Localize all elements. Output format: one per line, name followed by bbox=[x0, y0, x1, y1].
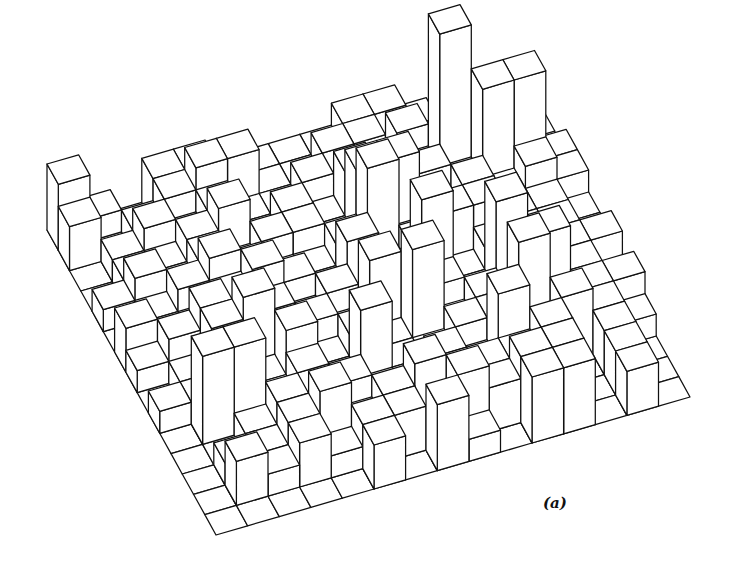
histogram-bar bbox=[148, 382, 191, 434]
histogram-bar bbox=[225, 432, 268, 506]
bar-face-front bbox=[532, 368, 564, 443]
bar-face-front bbox=[437, 395, 469, 470]
histogram-bar bbox=[616, 342, 659, 416]
histogram-3d-figure bbox=[0, 0, 737, 577]
histogram-bar bbox=[521, 347, 564, 443]
figure-caption: (a) bbox=[543, 494, 567, 512]
histogram-bar bbox=[363, 415, 406, 489]
bar-face-front bbox=[564, 359, 596, 434]
histogram-bar bbox=[58, 197, 101, 271]
histogram-bar bbox=[426, 375, 469, 471]
bar-face-front bbox=[203, 347, 235, 444]
histogram-bar bbox=[191, 327, 234, 445]
histogram-bar bbox=[126, 341, 169, 393]
bars-group bbox=[47, 5, 659, 506]
